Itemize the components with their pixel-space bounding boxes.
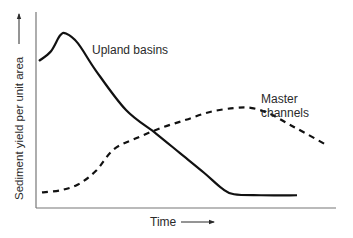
x-axis-label: Time	[150, 215, 177, 229]
series-master-channels	[42, 107, 327, 192]
annotation-master-line2: channels	[261, 106, 309, 120]
annotation-upland-basins: Upland basins	[92, 43, 168, 57]
series-upland-basins	[39, 33, 297, 196]
chart: Upland basins Master channels Time Sedim…	[0, 0, 353, 238]
y-axis-label: Sediment yield per unit area	[13, 56, 25, 200]
annotation-master-line1: Master	[261, 92, 298, 106]
